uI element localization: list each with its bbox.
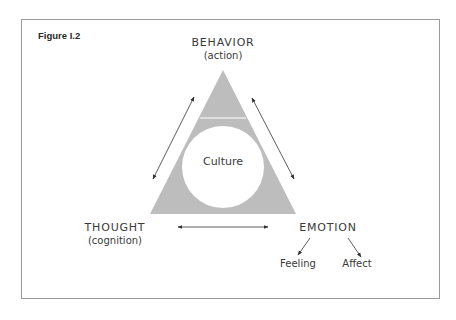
thought-subtitle: (cognition): [65, 236, 165, 246]
figure-diagram: Figure I.2 Culture BEHAVIOR (action) THO…: [0, 0, 456, 320]
arrow-emotion-feeling: [298, 238, 310, 255]
thought-title: THOUGHT: [65, 222, 165, 233]
arrow-emotion-affect: [348, 238, 361, 257]
culture-label: Culture: [193, 156, 253, 167]
emotion-child-affect: Affect: [327, 259, 387, 269]
behavior-subtitle: (action): [173, 51, 273, 61]
behavior-title: BEHAVIOR: [173, 37, 273, 48]
emotion-child-feeling: Feeling: [268, 259, 328, 269]
emotion-title: EMOTION: [278, 222, 378, 233]
